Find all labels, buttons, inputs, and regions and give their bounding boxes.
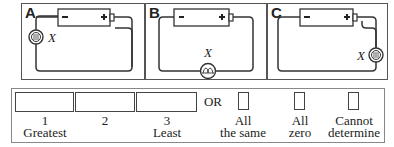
circuit-a-diagram [22,4,146,81]
rank-box-1[interactable] [15,92,74,112]
option-cannot-determine-line2: determine [322,127,386,139]
circuit-panel-a: A X [21,3,145,80]
option-all-zero-line2: zero [280,127,320,139]
option-box-cannot-determine[interactable] [348,92,359,110]
rank-box-3[interactable] [136,92,197,112]
rank-number-2: 2 [99,115,111,127]
circuit-panel-b: B X [145,3,267,80]
rank-box-2[interactable] [75,92,135,112]
bulb-x-label: X [204,46,212,59]
circuit-c-diagram [268,4,389,81]
bulb-x-label: X [357,49,365,62]
option-box-all-zero[interactable] [294,92,305,110]
circuit-panel-c: C X [267,3,388,80]
option-box-all-same[interactable] [238,92,249,110]
option-all-same-line2: the same [213,127,273,139]
answer-section: 1 Greatest 2 3 Least OR All the same All… [11,88,385,143]
rank-caption-least: Least [145,127,189,139]
circuit-b-diagram [146,4,268,81]
bulb-x-label: X [48,31,56,44]
or-label: OR [201,96,225,108]
rank-caption-greatest: Greatest [19,127,71,139]
